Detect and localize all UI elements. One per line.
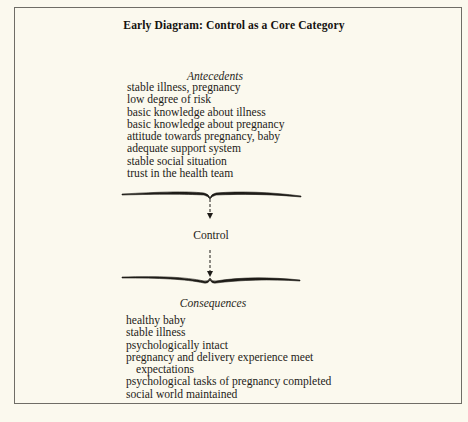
consequence-item: pregnancy and delivery experience meet e… <box>126 352 331 377</box>
antecedents-brace-icon <box>122 192 301 199</box>
consequences-list: healthy baby stable illness psychologica… <box>126 315 331 401</box>
consequence-item: stable illness <box>126 327 331 339</box>
arrowhead-down-icon <box>207 213 213 219</box>
consequence-item: social world maintained <box>126 389 331 401</box>
arrowhead-down-icon <box>207 271 213 277</box>
consequence-item-text: pregnancy and delivery experience meet <box>126 351 313 364</box>
consequence-item: psychological tasks of pregnancy complet… <box>126 376 331 388</box>
consequences-heading: Consequences <box>0 297 426 310</box>
consequences-brace-icon <box>122 277 300 284</box>
core-category-label: Control <box>0 229 422 242</box>
